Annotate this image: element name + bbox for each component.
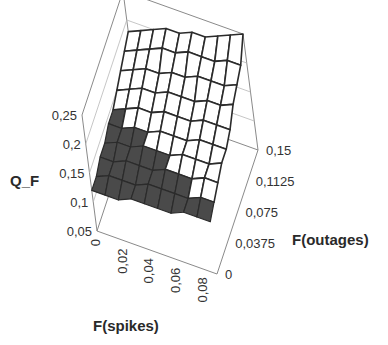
x-tick-label: 0,04: [141, 258, 156, 283]
surface-chart: 0,050,10,150,20,2500,020,040,060,0800,03…: [0, 0, 388, 345]
y-tick-label: 0,15: [266, 143, 291, 158]
y-tick-label: 0,0375: [235, 236, 275, 251]
z-axis-title: Q_F: [10, 172, 39, 189]
surface-cell: [197, 197, 214, 221]
y-tick-label: 0: [225, 267, 232, 282]
x-tick-label: 0,02: [115, 249, 130, 274]
z-tick-label: 0,25: [52, 108, 77, 123]
z-tick-label: 0,2: [63, 137, 81, 152]
y-tick-label: 0,075: [246, 205, 279, 220]
surface-cell: [224, 60, 240, 85]
y-axis-title: F(outages): [292, 231, 369, 248]
x-tick-label: 0,08: [195, 277, 210, 302]
z-tick-label: 0,15: [59, 166, 84, 181]
x-tick-label: 0,06: [168, 268, 183, 293]
z-tick-label: 0,05: [67, 224, 92, 239]
x-axis-title: F(spikes): [93, 317, 159, 334]
z-tick-label: 0,1: [70, 195, 88, 210]
x-tick-label: 0: [88, 239, 103, 246]
y-tick-label: 0,1125: [256, 174, 295, 189]
